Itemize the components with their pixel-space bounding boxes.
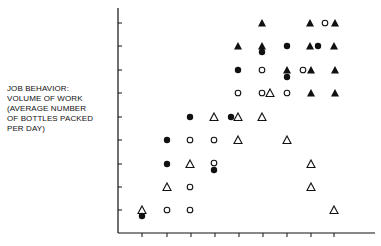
open-triangle-marker	[186, 160, 194, 168]
filled-circle-marker	[284, 74, 290, 80]
filled-triangle-marker	[331, 19, 339, 27]
filled-circle-marker	[164, 161, 170, 167]
filled-triangle-marker	[234, 42, 242, 50]
open-circle-marker	[259, 90, 265, 96]
filled-circle-marker	[187, 114, 193, 120]
filled-triangle-marker	[306, 19, 314, 27]
open-circle-marker	[187, 137, 193, 143]
filled-triangle-marker	[331, 66, 339, 74]
filled-triangle-marker	[307, 89, 315, 97]
open-circle-marker	[259, 67, 265, 73]
open-triangle-marker	[210, 113, 218, 121]
open-triangle-marker	[258, 113, 266, 121]
filled-triangle-marker	[283, 66, 291, 74]
filled-triangle-marker	[307, 66, 315, 74]
open-triangle-marker	[307, 183, 315, 191]
open-triangle-marker	[307, 160, 315, 168]
open-triangle-marker	[163, 183, 171, 191]
open-circle-marker	[211, 137, 217, 143]
open-triangle-marker	[234, 136, 242, 144]
scatter-plot	[0, 0, 381, 246]
open-triangle-marker	[234, 113, 242, 121]
open-circle-marker	[164, 207, 170, 213]
filled-circle-marker	[211, 167, 217, 173]
open-triangle-marker	[266, 89, 274, 97]
data-points	[138, 19, 339, 219]
filled-circle-marker	[228, 114, 234, 120]
filled-circle-marker	[235, 67, 241, 73]
open-triangle-marker	[283, 136, 291, 144]
open-circle-marker	[235, 90, 241, 96]
open-circle-marker	[322, 20, 328, 26]
filled-circle-marker	[139, 213, 145, 219]
filled-circle-marker	[315, 43, 321, 49]
filled-triangle-marker	[330, 42, 338, 50]
filled-triangle-marker	[258, 42, 266, 50]
filled-circle-marker	[164, 137, 170, 143]
filled-triangle-marker	[331, 89, 339, 97]
filled-circle-marker	[259, 49, 265, 55]
axes	[118, 8, 375, 237]
open-circle-marker	[284, 90, 290, 96]
filled-triangle-marker	[306, 42, 314, 50]
filled-triangle-marker	[258, 19, 266, 27]
open-circle-marker	[187, 184, 193, 190]
open-circle-marker	[211, 160, 217, 166]
open-circle-marker	[300, 67, 306, 73]
open-circle-marker	[187, 207, 193, 213]
open-triangle-marker	[330, 206, 338, 214]
filled-circle-marker	[284, 43, 290, 49]
open-triangle-marker	[138, 206, 146, 214]
